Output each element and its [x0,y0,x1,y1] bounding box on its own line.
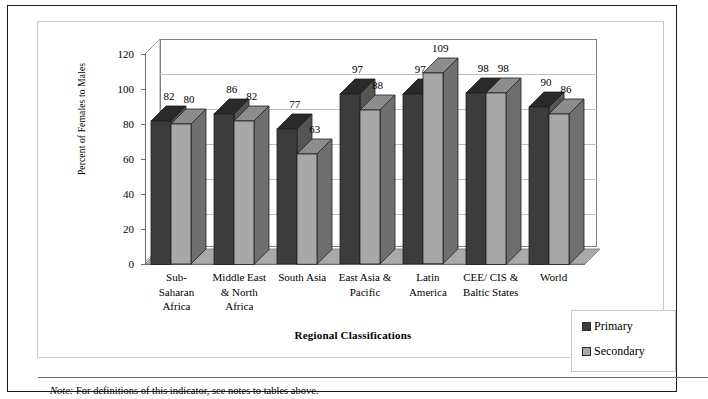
chart-legend[interactable]: Primary Secondary [571,310,676,372]
y-tick-mark-80 [141,124,146,125]
chart-frame: 120 100 80 60 40 20 0 Percent of Females… [37,21,664,358]
footnote-label: Note: [50,385,73,396]
bar-secondary-0 [170,108,207,265]
bar-secondary-4 [422,57,459,265]
value-label-secondary-6: 86 [552,84,580,95]
legend-label-primary: Primary [594,320,633,332]
category-label-line: World [509,270,599,285]
y-tick-mark-20 [141,229,146,230]
category-label-line: Africa [194,299,284,314]
value-label-secondary-5: 98 [489,63,517,74]
y-tick-label-100: 100 [98,84,134,95]
plot-area: 120 100 80 60 40 20 0 Percent of Females… [38,22,665,359]
y-axis-title: Percent of Females to Males [77,49,87,189]
gridline-100 [160,74,597,75]
y-tick-label-0: 0 [98,259,134,270]
y-tick-label-60: 60 [98,154,134,165]
bar-secondary-6 [548,98,585,266]
value-label-secondary-0: 80 [175,94,203,105]
value-label-primary-2: 77 [281,99,309,110]
legend-item-primary[interactable]: Primary [582,320,633,332]
figure-container: 120 100 80 60 40 20 0 Percent of Females… [7,5,677,392]
y-tick-label-80: 80 [98,119,134,130]
legend-swatch-secondary [582,347,591,356]
y-tick-label-120: 120 [98,49,134,60]
x-axis-title: Regional Classifications [188,329,518,341]
legend-item-secondary[interactable]: Secondary [582,345,645,357]
y-tick-mark-0 [141,264,146,265]
legend-label-secondary: Secondary [594,345,645,357]
bar-secondary-3 [359,94,396,265]
y-tick-label-40: 40 [98,189,134,200]
category-label-line: & North [194,285,284,300]
y-tick-mark-60 [141,159,146,160]
value-label-secondary-3: 88 [364,80,392,91]
bar-secondary-1 [233,105,270,266]
footnote-text: For definitions of this indicator, see n… [76,385,319,396]
bar-secondary-2 [296,138,333,265]
y-tick-mark-100 [141,89,146,90]
value-label-secondary-2: 63 [301,124,329,135]
value-label-secondary-1: 82 [238,91,266,102]
bar-secondary-5 [485,77,522,266]
legend-swatch-primary [582,322,591,331]
value-label-primary-3: 97 [344,64,372,75]
footnote-divider [38,377,708,378]
value-label-secondary-4: 109 [426,43,454,54]
y-tick-mark-40 [141,194,146,195]
y-tick-label-20: 20 [98,224,134,235]
y-tick-mark-120 [141,54,146,55]
category-label-line: Baltic States [446,285,536,300]
category-label-6: World [509,270,599,285]
footnote: Note: For definitions of this indicator,… [50,384,318,397]
